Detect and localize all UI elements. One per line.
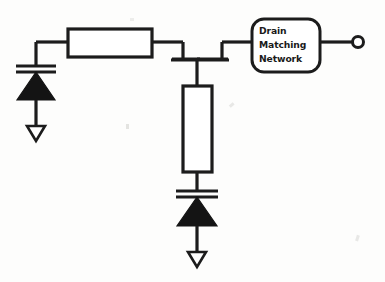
dmn-label-line-3: Network: [259, 53, 303, 64]
dmn-label-line-2: Matching: [259, 39, 306, 50]
shunt-transmission-line-box: [183, 86, 212, 172]
circuit-diagram-canvas: Drain Matching Network: [0, 0, 385, 282]
left-diode: [17, 72, 55, 100]
series-transmission-line-box: [68, 29, 152, 57]
output-terminal-circle: [353, 37, 364, 48]
scan-artifacts: [126, 18, 360, 241]
circuit-schematic: Drain Matching Network: [0, 0, 385, 282]
shunt-ground-symbol: [188, 252, 206, 267]
left-ground-symbol: [27, 126, 45, 141]
dmn-label-line-1: Drain: [259, 25, 287, 36]
shunt-diode: [177, 197, 217, 226]
device-junction: [171, 42, 229, 86]
